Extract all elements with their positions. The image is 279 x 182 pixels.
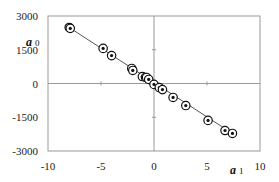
scatter-chart: -3000-1500015003000-10-50510 a 0 a 1 (0, 0, 279, 182)
data-point (169, 93, 177, 101)
data-point (158, 85, 166, 93)
x-tick-label: 10 (255, 160, 267, 172)
x-axis-label-main: a (230, 163, 236, 177)
y-axis-label-sub: 0 (35, 38, 40, 48)
y-tick-label: -1500 (12, 111, 38, 123)
x-tick-label: -10 (41, 160, 56, 172)
data-point (182, 101, 190, 109)
data-point (228, 129, 236, 137)
y-tick-label: 0 (33, 78, 39, 90)
y-tick-label: 3000 (16, 10, 39, 22)
data-point (99, 44, 107, 52)
data-point (66, 24, 74, 32)
x-axis-label-sub: 1 (239, 166, 244, 176)
data-point (204, 116, 212, 124)
x-tick-label: -5 (96, 160, 106, 172)
data-point (129, 66, 137, 74)
y-tick-label: -3000 (12, 145, 38, 157)
x-tick-label: 0 (151, 160, 157, 172)
data-point (107, 51, 115, 59)
x-axis-label: a 1 (230, 163, 244, 177)
x-tick-label: 5 (204, 160, 210, 172)
y-axis-label-main: a (26, 35, 32, 49)
